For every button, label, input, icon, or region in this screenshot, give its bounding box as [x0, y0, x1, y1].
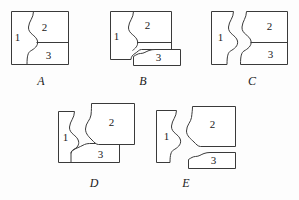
- figure-a-piece-label-2: 2: [40, 22, 49, 33]
- figure-c-outline-23: [241, 12, 288, 65]
- figure-e-piece-label-1: 1: [162, 131, 171, 142]
- figure-e-label: E: [176, 177, 196, 189]
- figure-e-piece-label-2: 2: [208, 119, 217, 130]
- figure-b-piece-label-3: 3: [154, 52, 163, 63]
- figure-d-label: D: [84, 177, 104, 189]
- figure-c-piece-label-2: 2: [265, 21, 274, 32]
- figure-b-piece-label-2: 2: [143, 20, 152, 31]
- figure-b-label: B: [133, 75, 153, 87]
- figure-c-piece-label-1: 1: [216, 32, 225, 43]
- figure-c-shape-23: [240, 11, 288, 65]
- figure-d-piece-label-2: 2: [107, 117, 116, 128]
- figure-c-piece-label-3: 3: [266, 49, 275, 60]
- figure-a-label: A: [31, 75, 51, 87]
- figure-c-label: C: [242, 75, 262, 87]
- figure-d-piece-label-3: 3: [96, 149, 105, 160]
- figure-board: 1 2 3 A 1 2 3 B 1 2 3 C 1 2 3 D: [0, 0, 299, 200]
- figure-a-piece-label-1: 1: [13, 32, 22, 43]
- figure-e-piece-label-3: 3: [209, 155, 218, 166]
- figure-d-piece-label-1: 1: [61, 132, 70, 143]
- figure-b-piece-label-1: 1: [112, 31, 121, 42]
- figure-a-piece-label-3: 3: [44, 50, 53, 61]
